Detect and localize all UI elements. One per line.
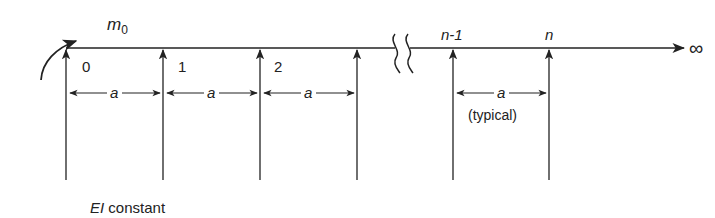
stiffness-label: EI constant <box>90 199 166 216</box>
support-2: 2 <box>260 50 282 180</box>
moment-arrow-icon <box>41 41 76 80</box>
support-label-0: 0 <box>82 58 90 75</box>
svg-text:a: a <box>207 84 215 101</box>
spacing-dimension-typical: a (typical) <box>457 84 546 123</box>
support-1: 1 <box>163 50 186 180</box>
support-0: 0 <box>66 50 90 180</box>
beam-diagram: ∞ m0 0 1 2 n-1 n a a a <box>0 0 715 218</box>
break-icon <box>393 34 413 73</box>
spacing-dimension-1-2: a <box>167 84 257 101</box>
support-label-1: 1 <box>178 58 186 75</box>
moment-label: m0 <box>107 15 128 37</box>
svg-text:a: a <box>497 84 505 101</box>
support-n: n <box>545 26 553 180</box>
spacing-dimension-0-1: a <box>70 84 160 101</box>
support-label-n-minus-1: n-1 <box>441 26 463 43</box>
svg-text:a: a <box>304 84 312 101</box>
support-label-2: 2 <box>274 58 282 75</box>
infinity-label: ∞ <box>689 37 703 59</box>
spacing-dimension-2-3: a <box>264 84 354 101</box>
support-label-n: n <box>545 26 553 43</box>
svg-text:a: a <box>110 84 118 101</box>
typical-label: (typical) <box>468 107 517 123</box>
support-n-minus-1: n-1 <box>441 26 463 180</box>
